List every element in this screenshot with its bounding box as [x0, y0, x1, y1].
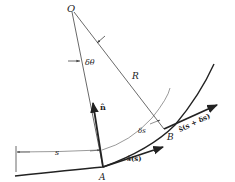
- label-point-b: B: [166, 132, 174, 142]
- label-arc-increment: δs: [138, 127, 146, 135]
- label-normal: n̂: [100, 102, 106, 112]
- curvature-diagram: O δθ R n̂ s δs A B ŝ(s) ŝ(s + δs): [0, 0, 235, 182]
- label-tangent-a: ŝ(s): [127, 154, 142, 163]
- label-point-a: A: [98, 172, 106, 182]
- label-angle: δθ: [85, 58, 95, 67]
- delta-s-dimension-arc: [102, 88, 170, 150]
- label-arc-length: s: [55, 148, 59, 157]
- angle-arrow-right: [97, 36, 105, 43]
- label-radius: R: [131, 71, 139, 81]
- radius-line-oa: [72, 12, 103, 167]
- radius-line-ob: [74, 12, 164, 129]
- normal-vector: [93, 103, 103, 167]
- label-center-o: O: [67, 3, 75, 14]
